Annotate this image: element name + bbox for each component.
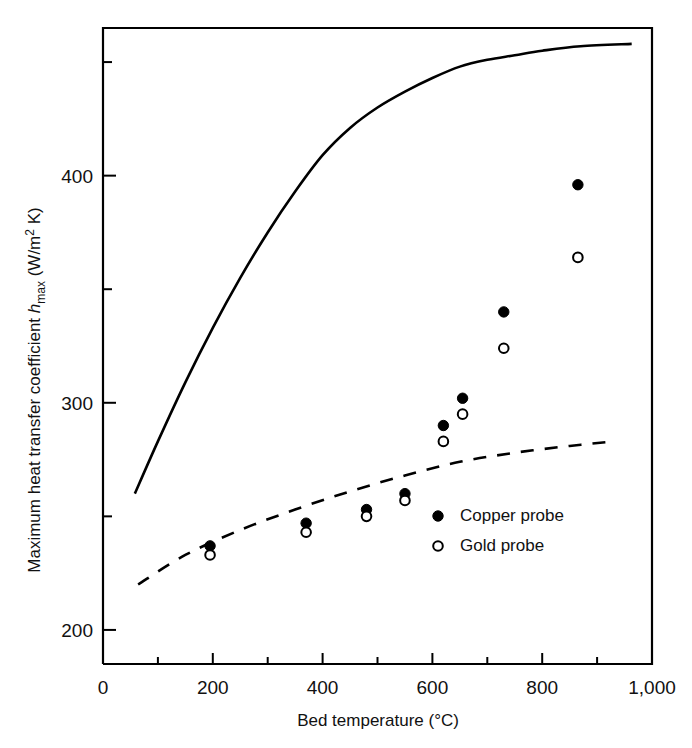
x-tick-label: 200 <box>197 677 229 698</box>
legend: Copper probeGold probe <box>433 506 564 555</box>
data-point-gold <box>301 527 311 537</box>
legend-marker-open-circle-icon <box>433 541 443 551</box>
figure-container: 02004006008001,000 200300400 Copper prob… <box>0 0 692 748</box>
y-axis-tick-labels: 200300400 <box>61 166 93 641</box>
y-axis-title: Maximum heat transfer coefficient hmax (… <box>23 207 48 572</box>
data-point-copper <box>499 307 509 317</box>
y-tick-label: 400 <box>61 166 93 187</box>
x-tick-label: 800 <box>526 677 558 698</box>
data-point-copper <box>457 393 467 403</box>
y-tick-label: 200 <box>61 620 93 641</box>
legend-label: Copper probe <box>460 506 564 525</box>
data-point-copper <box>438 420 448 430</box>
data-point-gold <box>400 496 410 506</box>
y-axis-major-ticks <box>103 176 116 630</box>
y-tick-label: 300 <box>61 393 93 414</box>
x-axis-tick-labels: 02004006008001,000 <box>98 677 676 698</box>
legend-marker-filled-circle-icon <box>433 511 443 521</box>
x-tick-label: 400 <box>307 677 339 698</box>
legend-label: Gold probe <box>460 536 544 555</box>
trend-curves <box>135 44 632 585</box>
data-point-gold <box>439 437 449 447</box>
upper-solid-curve <box>135 44 632 494</box>
x-axis-title: Bed temperature (°C) <box>297 711 459 730</box>
svg-text:Maximum heat transfer coeffici: Maximum heat transfer coefficient hmax (… <box>23 207 48 572</box>
data-point-copper <box>573 180 583 190</box>
data-point-gold <box>499 343 509 353</box>
plot-frame <box>103 28 652 664</box>
x-tick-label: 0 <box>98 677 109 698</box>
data-point-gold <box>458 409 468 419</box>
chart-canvas: 02004006008001,000 200300400 Copper prob… <box>0 0 692 748</box>
data-point-gold <box>573 253 583 263</box>
data-point-gold <box>362 512 372 522</box>
data-point-gold <box>205 550 215 560</box>
x-tick-label: 1,000 <box>628 677 676 698</box>
data-series-markers <box>205 180 583 560</box>
y-axis-minor-ticks <box>103 62 112 516</box>
x-tick-label: 600 <box>417 677 449 698</box>
